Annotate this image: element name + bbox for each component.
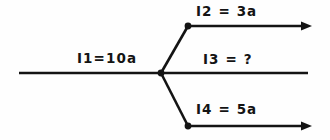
label-branch-current-i2: I2 = 3a	[196, 5, 257, 19]
label-branch-current-i3: I3 = ?	[203, 53, 253, 67]
label-branch-current-i4: I4 = 5a	[196, 103, 257, 117]
diagonal-segment-bottom	[161, 73, 188, 126]
arrowhead-icon-i2	[301, 21, 312, 30]
diagram-canvas	[0, 0, 330, 140]
arrowhead-icon-i4	[301, 121, 312, 130]
current-branching-diagram: I1=10a I2 = 3a I3 = ? I4 = 5a	[0, 0, 330, 140]
diagonal-segment-top	[161, 26, 188, 73]
label-input-current-i1: I1=10a	[77, 52, 137, 66]
